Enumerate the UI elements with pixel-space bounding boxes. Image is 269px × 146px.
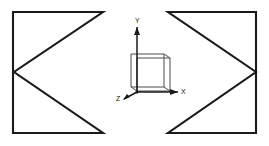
x-axis-arrowhead-icon xyxy=(170,89,178,95)
cube-front-face xyxy=(137,58,170,91)
origin-marker xyxy=(135,90,138,93)
z-axis-label: Z xyxy=(116,95,121,102)
z-axis-arrowhead-icon xyxy=(123,94,130,100)
right-arrowhead-shape xyxy=(168,12,256,133)
technical-figure-diagram: Y X Z xyxy=(0,0,269,146)
figure-canvas: Y X Z xyxy=(0,0,269,146)
cube-left-back-edge xyxy=(131,54,137,91)
x-axis-label: X xyxy=(181,88,186,95)
y-axis-arrowhead-icon xyxy=(134,27,140,35)
y-axis-label: Y xyxy=(135,17,140,24)
left-arrowhead-shape xyxy=(13,12,103,133)
